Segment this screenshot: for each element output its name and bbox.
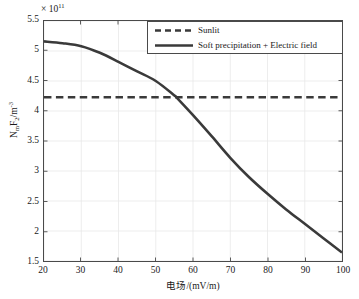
legend-swatch-solid	[154, 38, 194, 53]
y-axis-title-prefix: N	[9, 131, 19, 138]
y-axis-title: NmF2/m-3	[7, 95, 19, 145]
y-axis-title-wrapper: NmF2/m-3	[0, 108, 44, 132]
x-axis-tick-label: 60	[188, 265, 198, 275]
x-axis-tick-label: 100	[336, 265, 350, 275]
legend-label: Soft precipitation + Electric field	[198, 38, 317, 53]
legend-swatch-dashed	[154, 23, 194, 38]
y-axis-tick-label: 5.5	[27, 15, 39, 24]
y-axis-tick-label: 4.5	[27, 76, 39, 85]
y-axis-tick-label: 3.5	[27, 136, 39, 145]
x-axis-tick-label: 90	[301, 265, 311, 275]
chart-figure: × 1011 1.522.533.544.555.5 2030405060708…	[0, 0, 359, 299]
y-axis-tick-label: 2	[34, 227, 39, 236]
y-axis-title-sup: -3	[7, 102, 14, 107]
y-axis-exponent-power: 11	[58, 2, 64, 9]
y-axis-tick-label: 2.5	[27, 197, 39, 206]
y-axis-title-sub1: m	[13, 126, 20, 131]
x-axis-tick-labels: 2030405060708090100	[0, 265, 359, 279]
x-axis-tick-label: 80	[263, 265, 273, 275]
y-axis-tick-labels: 1.522.533.544.555.5	[0, 0, 39, 299]
x-axis-tick-label: 50	[151, 265, 161, 275]
y-axis-exponent-base: × 10	[41, 4, 58, 14]
x-axis-tick-label: 30	[76, 265, 86, 275]
legend-label: Sunlit	[198, 23, 220, 38]
y-axis-exponent-label: × 1011	[41, 2, 65, 14]
legend-item-soft-precipitation[interactable]: Soft precipitation + Electric field	[148, 38, 344, 53]
x-axis-tick-label: 70	[226, 265, 236, 275]
axis-tick-marks	[43, 20, 343, 262]
legend-box: Sunlit Soft precipitation + Electric fie…	[147, 21, 343, 54]
y-axis-title-sub2: 2	[13, 117, 20, 120]
x-axis-tick-label: 40	[113, 265, 123, 275]
legend-item-sunlit[interactable]: Sunlit	[148, 23, 344, 38]
y-axis-title-unit: /m	[9, 107, 19, 117]
y-axis-tick-label: 5	[34, 45, 39, 54]
x-axis-tick-label: 20	[38, 265, 48, 275]
x-axis-title: 电场/(mV/m)	[43, 278, 343, 292]
y-axis-tick-label: 3	[34, 166, 39, 175]
